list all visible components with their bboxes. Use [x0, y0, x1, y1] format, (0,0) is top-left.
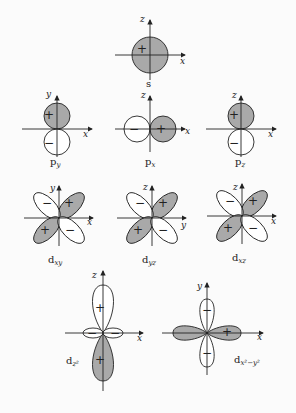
svg-text:+: + — [95, 353, 105, 367]
svg-text:+: + — [133, 223, 143, 237]
px-x-axis-label: x — [185, 126, 190, 136]
svg-text:−: − — [65, 223, 75, 237]
svg-text:+: + — [156, 122, 166, 136]
svg-text:−: − — [87, 326, 97, 340]
svg-text:−: − — [44, 136, 54, 150]
dxz-z-axis-label: z — [233, 182, 238, 192]
svg-text:−: − — [229, 136, 239, 150]
dx2y2-x-axis-label: x — [257, 332, 262, 342]
dyz-label: dyz — [142, 254, 156, 267]
svg-text:+: + — [223, 221, 233, 235]
py-orbital — [22, 96, 92, 157]
s-z-axis-label: z — [140, 14, 145, 24]
pz-orbital — [206, 96, 276, 157]
dx2y2-y-axis-label: y — [197, 281, 202, 291]
svg-text:+: + — [229, 108, 239, 122]
svg-text:+: + — [64, 196, 74, 210]
svg-text:−: − — [225, 194, 235, 208]
dz2-orbital — [65, 271, 143, 391]
svg-text:+: + — [222, 325, 232, 339]
dz2-label: dz² — [66, 355, 79, 368]
pz-label: pz — [235, 156, 245, 169]
orbital-diagram: + + − − + + − + − + − + − + − + − + − + … — [0, 0, 296, 413]
svg-text:−: − — [129, 122, 139, 136]
dxy-orbital — [24, 186, 93, 248]
dyz-y-axis-label: y — [181, 220, 186, 230]
svg-text:+: + — [137, 42, 147, 56]
px-label: px — [145, 156, 155, 169]
pz-x-axis-label: x — [268, 129, 273, 139]
dxz-orbital — [207, 184, 276, 246]
dx2y2-label: dx²−y² — [234, 354, 260, 367]
py-x-axis-label: x — [83, 129, 88, 139]
s-orbital — [115, 20, 185, 80]
px-z-axis-label: z — [141, 90, 146, 100]
dxz-label: dxz — [232, 252, 246, 265]
py-label: py — [50, 156, 60, 169]
px-orbital — [115, 96, 185, 152]
svg-text:−: − — [110, 326, 120, 340]
py-y-axis-label: y — [46, 89, 51, 99]
dyz-z-axis-label: z — [143, 182, 148, 192]
svg-text:+: + — [44, 108, 54, 122]
dyz-orbital — [117, 186, 186, 248]
dxy-label: dxy — [48, 254, 62, 267]
dxy-y-axis-label: y — [50, 183, 55, 193]
svg-text:−: − — [135, 196, 145, 210]
svg-text:+: + — [158, 196, 168, 210]
svg-text:−: − — [248, 221, 258, 235]
svg-text:−: − — [42, 196, 52, 210]
svg-text:+: + — [40, 223, 50, 237]
s-x-axis-label: x — [180, 56, 185, 66]
dxy-x-axis-label: x — [87, 217, 92, 227]
svg-text:+: + — [95, 301, 105, 315]
svg-text:−: − — [202, 346, 212, 360]
svg-text:−: − — [158, 223, 168, 237]
s-label: s — [146, 78, 151, 89]
svg-text:+: + — [248, 194, 258, 208]
dxz-x-axis-label: x — [271, 216, 276, 226]
dz2-z-axis-label: z — [92, 270, 97, 280]
dz2-x-axis-label: x — [137, 333, 142, 343]
svg-text:−: − — [202, 303, 212, 317]
pz-z-axis-label: z — [232, 90, 237, 100]
